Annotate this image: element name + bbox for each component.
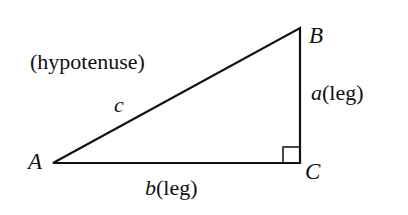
side-b-group: b(leg) — [145, 177, 198, 199]
side-c-label: c — [114, 94, 124, 116]
vertex-b-label: B — [309, 24, 323, 47]
side-a-label: a — [311, 80, 322, 105]
right-angle-marker — [283, 147, 300, 163]
side-a-group: a(leg) — [311, 82, 364, 104]
vertex-c-label: C — [305, 160, 320, 183]
triangle-figure — [0, 0, 408, 215]
vertex-a-label: A — [28, 150, 42, 173]
side-a-note: (leg) — [322, 80, 364, 105]
right-triangle-diagram: A B C (hypotenuse) c a(leg) b(leg) — [0, 0, 408, 215]
side-b-label: b — [145, 175, 156, 200]
hypotenuse-note: (hypotenuse) — [30, 51, 145, 73]
side-b-note: (leg) — [156, 175, 198, 200]
